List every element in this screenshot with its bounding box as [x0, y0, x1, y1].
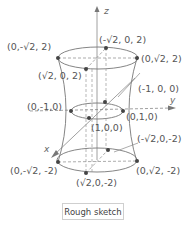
leader-bottom	[114, 143, 138, 152]
label-top-neg-y: (0,-√2, 2)	[7, 42, 51, 52]
z-axis-label: z	[104, 7, 109, 16]
label-top-neg-x: (-√2, 0, 2)	[99, 35, 146, 45]
top-diameter-x	[86, 48, 106, 69]
label-bot-pos-x: (√2,0,-2)	[76, 178, 117, 188]
label-bot-pos-y: (0,√2, -2)	[136, 166, 180, 176]
label-mid-neg-x: (-1, 0, 0)	[138, 84, 179, 94]
label-mid-pos-x: (1,0,0)	[91, 123, 123, 133]
z-axis-arrow-icon	[95, 6, 100, 12]
leader-top	[118, 73, 140, 97]
label-bot-neg-x: (-√2,0,-2)	[137, 134, 182, 144]
y-axis-label: y	[170, 96, 175, 105]
caption-rough-sketch: Rough sketch	[62, 203, 124, 220]
x-axis-label: x	[44, 145, 49, 154]
label-top-pos-y: (0,√2, 2)	[141, 54, 182, 64]
label-top-pos-x: (√2, 0, 2)	[38, 71, 82, 81]
label-mid-neg-y: (0,-1,0)	[27, 102, 62, 112]
label-bot-neg-y: (0,-√2, -2)	[10, 166, 58, 176]
label-mid-pos-y: (0,1,0)	[126, 112, 158, 122]
hyperboloid-sketch	[0, 0, 191, 226]
y-axis-arrow-icon	[168, 106, 176, 111]
right-profile	[129, 58, 137, 162]
